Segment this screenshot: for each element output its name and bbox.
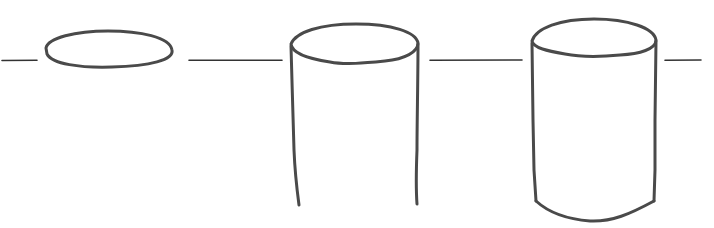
open-cylinder-right-side	[416, 44, 418, 204]
open-cylinder-left-side	[291, 46, 299, 205]
connector-lines	[2, 60, 701, 61]
diagram-canvas	[0, 0, 714, 228]
open-cylinder-shape	[291, 24, 418, 205]
closed-cylinder-base-curve	[536, 201, 654, 221]
ellipse-shape	[46, 31, 172, 67]
open-cylinder-top-ellipse	[291, 24, 418, 64]
ellipse-outline	[46, 31, 172, 67]
closed-cylinder-shape	[532, 19, 656, 221]
closed-cylinder-right-side	[654, 41, 656, 201]
closed-cylinder-top-ellipse	[532, 19, 656, 56]
closed-cylinder-left-side	[532, 43, 536, 201]
